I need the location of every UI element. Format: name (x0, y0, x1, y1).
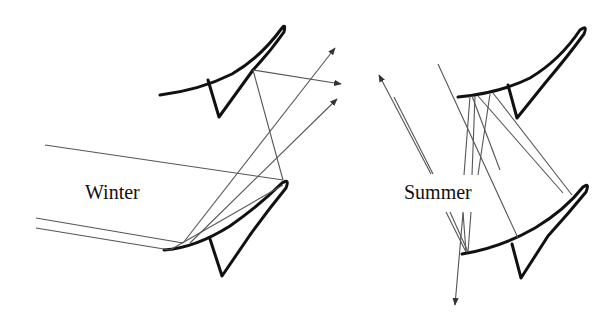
summer-label: Summer (404, 182, 472, 202)
summer-panel (379, 28, 587, 305)
winter-lower-shelf (164, 181, 287, 276)
winter-rays (36, 48, 341, 250)
light-shelf-diagram (0, 0, 614, 313)
summer-lower-shelf (462, 185, 587, 278)
winter-label: Winter (85, 182, 140, 202)
summer-upper-shelf (458, 28, 585, 118)
winter-panel (36, 26, 341, 276)
